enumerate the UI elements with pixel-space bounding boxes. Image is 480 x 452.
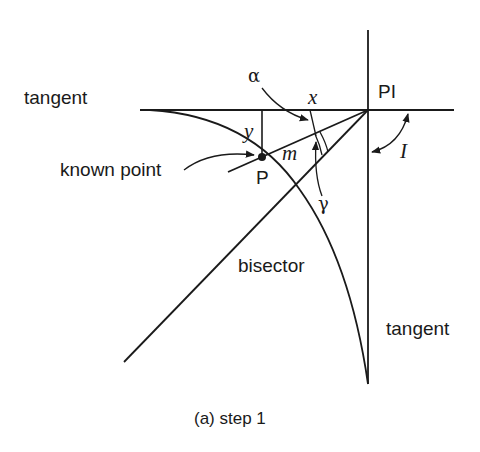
bisector-label: bisector	[238, 255, 305, 276]
intersection-angle-label: I	[399, 139, 408, 163]
bisector-line	[124, 110, 368, 362]
known-point-label: known point	[60, 159, 162, 180]
tangent-label-right: tangent	[386, 318, 450, 339]
figure-caption: (a) step 1	[194, 409, 266, 428]
known-point-arrow	[184, 154, 254, 170]
alpha-arrow	[262, 88, 308, 120]
tangent-label-top: tangent	[24, 87, 88, 108]
known-point-marker	[258, 153, 266, 161]
m-label: m	[282, 141, 297, 165]
p-label: P	[256, 167, 269, 188]
circular-curve-arc	[150, 110, 368, 384]
alpha-reference-line	[310, 110, 316, 136]
pi-label: PI	[378, 81, 396, 102]
alpha-label: α	[248, 65, 260, 86]
horizontal-curve-diagram: tangent tangent known point PI P bisecto…	[0, 0, 480, 452]
y-label: y	[242, 119, 254, 143]
x-label: x	[307, 85, 318, 109]
gamma-label: γ	[318, 193, 329, 214]
